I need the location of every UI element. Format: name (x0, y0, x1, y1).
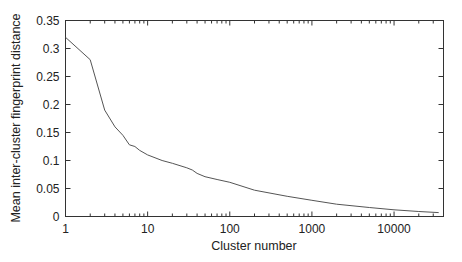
y-axis-label: Mean inter-cluster fingerprint distance (9, 13, 23, 222)
plot-frame (66, 21, 444, 217)
x-axis-ticks: 110100100010000 (62, 21, 443, 236)
data-line (66, 37, 439, 212)
x-axis-label: Cluster number (211, 239, 296, 253)
x-tick-label: 1 (62, 222, 69, 236)
y-axis-ticks: 00.050.10.150.20.250.30.35 (36, 14, 443, 224)
y-tick-label: 0.1 (43, 154, 60, 168)
y-tick-label: 0 (53, 210, 60, 224)
x-tick-label: 100 (220, 222, 240, 236)
x-tick-label: 10 (141, 222, 155, 236)
y-tick-label: 0.35 (36, 14, 60, 28)
y-tick-label: 0.05 (36, 182, 60, 196)
y-tick-label: 0.15 (36, 126, 60, 140)
y-tick-label: 0.25 (36, 70, 60, 84)
y-tick-label: 0.2 (43, 98, 60, 112)
x-tick-label: 1000 (299, 222, 326, 236)
line-chart: 00.050.10.150.20.250.30.35 1101001000100… (0, 0, 462, 262)
x-tick-label: 10000 (377, 222, 411, 236)
y-tick-label: 0.3 (43, 42, 60, 56)
